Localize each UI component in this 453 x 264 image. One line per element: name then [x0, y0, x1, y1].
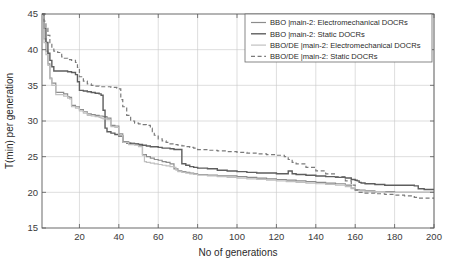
- y-tick-label: 40: [27, 44, 38, 55]
- legend-label-1: BBO |main-2: Static DOCRs: [270, 30, 365, 39]
- chart-legend: BBO |main-2: Electromechanical DOCRsBBO …: [245, 14, 432, 62]
- x-tick-label: 120: [268, 231, 284, 242]
- x-tick-label: 80: [192, 231, 203, 242]
- y-axis-title: T(min) per generation: [4, 73, 15, 169]
- x-tick-label: 20: [74, 231, 85, 242]
- y-tick-label: 30: [27, 115, 38, 126]
- x-tick-label: 180: [387, 231, 403, 242]
- x-tick-label: 200: [426, 231, 442, 242]
- x-tick-label: 60: [153, 231, 164, 242]
- y-tick-label: 20: [27, 187, 38, 198]
- x-tick-label: 140: [308, 231, 324, 242]
- convergence-line-chart: 2040608010012014016018020015202530354045…: [0, 0, 453, 264]
- y-tick-label: 15: [27, 222, 38, 233]
- legend-label-0: BBO |main-2: Electromechanical DOCRs: [270, 18, 408, 27]
- x-axis-title: No of generations: [199, 247, 278, 258]
- y-tick-label: 35: [27, 80, 38, 91]
- x-tick-label: 160: [347, 231, 363, 242]
- y-tick-label: 45: [27, 8, 38, 19]
- x-tick-label: 40: [114, 231, 125, 242]
- y-tick-label: 25: [27, 151, 38, 162]
- x-tick-label: 100: [229, 231, 245, 242]
- legend-label-2: BBO/DE |main-2: Electromechanical DOCRs: [270, 41, 421, 50]
- chart-figure: 2040608010012014016018020015202530354045…: [0, 0, 453, 264]
- legend-label-3: BBO/DE |main-2: Static DOCRs: [270, 52, 378, 61]
